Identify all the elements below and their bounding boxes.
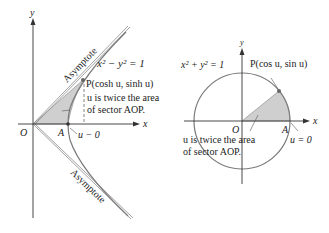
note-line2-right: of sector AOP.: [183, 146, 241, 157]
u-zero-leader-right: [291, 123, 298, 131]
u-zero-leader-left: [70, 128, 77, 134]
circle-equation: x² + y² = 1: [180, 59, 224, 70]
circle-figure: y x x² + y² = 1 P(cos u, sin u) O A u = …: [180, 38, 318, 184]
y-axis-label-right: y: [239, 38, 244, 47]
x-axis-arrow-icon-right: [303, 119, 310, 124]
point-p-label-right: P(cos u, sin u): [250, 58, 307, 70]
point-p-label-left: P(cosh u, sinh u): [86, 78, 153, 90]
point-p-circle: [277, 89, 281, 93]
u-zero-label-left: u − 0: [78, 129, 100, 140]
y-axis-arrow-icon-right: [240, 48, 245, 55]
note-line2-left: of sector AOP.: [87, 104, 145, 115]
point-p-hyperbola: [81, 78, 85, 82]
a-label-right: A: [281, 124, 289, 135]
note-line1-right: u is twice the area: [183, 134, 256, 145]
u-zero-label-right: u = 0: [290, 134, 312, 145]
origin-label-left: O: [20, 127, 27, 138]
x-axis-arrow-icon: [133, 122, 140, 127]
y-axis-arrow-icon: [31, 18, 36, 25]
hyperbola-equation: x² − y² = 1: [96, 57, 145, 69]
note-line1-left: u is twice the area: [87, 92, 160, 103]
a-label-left: A: [57, 127, 65, 138]
point-a-hyperbola: [66, 122, 70, 126]
y-axis-label-left: y: [29, 7, 35, 18]
x-axis-label-right: x: [312, 115, 318, 126]
hyperbolic-sector-shade: [33, 80, 83, 124]
x-axis-label-left: x: [142, 118, 148, 129]
diagram-canvas: y x x² − y² = 1 P(cosh u, sinh u) u is t…: [0, 0, 329, 233]
hyperbola-figure: y x x² − y² = 1 P(cosh u, sinh u) u is t…: [18, 7, 160, 219]
